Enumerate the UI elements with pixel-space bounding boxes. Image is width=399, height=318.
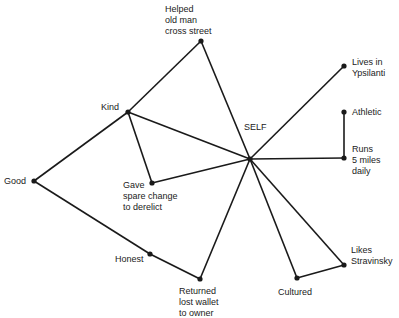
edge-self-kind [128, 112, 250, 159]
node-good [31, 178, 36, 183]
self-label: SELF [244, 122, 267, 133]
label-runs: Runs 5 miles daily [352, 144, 381, 177]
edge-self-cultured [250, 159, 297, 278]
edge-self-lives [250, 66, 344, 159]
label-gave: Gave spare change to derelict [123, 180, 178, 213]
edges [34, 41, 344, 279]
label-good: Good [4, 176, 26, 187]
label-cultured: Cultured [278, 287, 312, 298]
edge-kind-good [34, 112, 128, 181]
label-kind: Kind [101, 102, 119, 113]
edge-self-returned [200, 159, 250, 279]
edge-self-helped [201, 41, 250, 159]
label-lives: Lives in Ypsilanti [352, 57, 385, 79]
label-athletic: Athletic [352, 107, 382, 118]
label-helped: Helped old man cross street [165, 4, 212, 37]
edge-kind-helped [128, 41, 201, 112]
edge-self-runs [250, 158, 344, 159]
node-helped [198, 38, 203, 43]
node-athletic [341, 109, 346, 114]
node-self [247, 156, 252, 161]
node-runs [341, 155, 346, 160]
label-honest: Honest [115, 254, 144, 265]
label-likes: Likes Stravinsky [351, 245, 393, 267]
node-cultured [294, 275, 299, 280]
edge-kind-gave [128, 112, 152, 183]
edge-honest-returned [150, 254, 200, 279]
node-dots [31, 38, 346, 281]
label-returned: Returned lost wallet to owner [179, 286, 219, 318]
edge-self-likes [250, 159, 344, 265]
node-kind [125, 109, 130, 114]
node-lives [341, 63, 346, 68]
edge-cultured-likes [297, 265, 344, 278]
concept-network [0, 0, 399, 318]
node-likes [341, 262, 346, 267]
node-returned [197, 276, 202, 281]
node-honest [147, 251, 152, 256]
